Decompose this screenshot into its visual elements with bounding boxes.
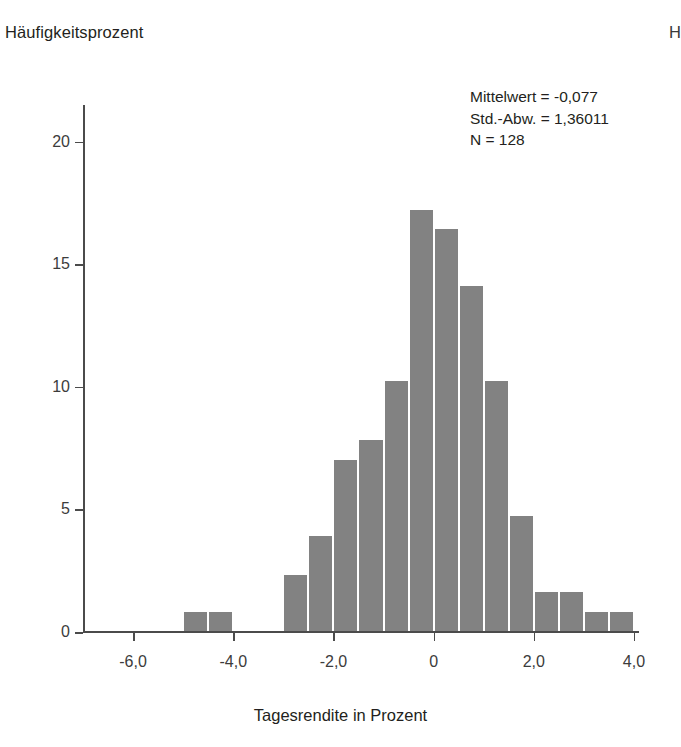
x-axis-title: Tagesrendite in Prozent xyxy=(0,706,681,725)
stat-mean: Mittelwert = -0,077 xyxy=(470,86,609,108)
plot-area: 05101520 -6,0-4,0-2,002,04,0 xyxy=(83,105,639,633)
histogram-bar xyxy=(559,592,584,631)
x-tick-mark xyxy=(133,632,135,641)
x-tick-mark xyxy=(233,632,235,641)
x-tick-label: 4,0 xyxy=(623,653,645,671)
histogram-bar xyxy=(584,612,609,632)
histogram-bar xyxy=(509,516,534,631)
x-tick-label: -6,0 xyxy=(119,653,147,671)
histogram-bar xyxy=(283,575,308,631)
y-tick-label: 10 xyxy=(52,378,70,396)
histogram-bar xyxy=(484,381,509,631)
x-tick-mark xyxy=(634,632,636,641)
adjacent-figure-fragment: H xyxy=(669,23,681,42)
y-tick-label: 20 xyxy=(52,133,70,151)
y-tick-mark xyxy=(75,142,83,144)
y-tick-mark xyxy=(75,387,83,389)
x-tick-label: 0 xyxy=(429,653,438,671)
y-tick-label: 0 xyxy=(61,623,70,641)
y-tick-mark xyxy=(75,509,83,511)
y-tick-mark xyxy=(75,632,83,634)
histogram-bar xyxy=(333,460,358,632)
x-tick-label: 2,0 xyxy=(523,653,545,671)
y-tick-mark xyxy=(75,264,83,266)
histogram-bar xyxy=(609,612,634,632)
y-tick-label: 5 xyxy=(61,500,70,518)
x-tick-label: -4,0 xyxy=(219,653,247,671)
y-tick-label: 15 xyxy=(52,255,70,273)
x-tick-mark xyxy=(333,632,335,641)
x-tick-mark xyxy=(534,632,536,641)
x-tick-mark xyxy=(434,632,436,641)
stat-count: N = 128 xyxy=(470,129,609,151)
histogram-bar xyxy=(183,612,208,632)
histogram-figure: Häufigkeitsprozent H 05101520 -6,0-4,0-2… xyxy=(0,0,681,747)
histogram-bar xyxy=(434,229,459,631)
histogram-bar xyxy=(409,210,434,632)
x-tick-label: -2,0 xyxy=(320,653,348,671)
histogram-bar xyxy=(208,612,233,632)
histogram-bar xyxy=(358,440,383,631)
histogram-bar xyxy=(534,592,559,631)
statistics-annotation: Mittelwert = -0,077 Std.-Abw. = 1,36011 … xyxy=(470,86,609,151)
histogram-bars xyxy=(83,105,639,632)
histogram-bar xyxy=(308,536,333,632)
stat-stddev: Std.-Abw. = 1,36011 xyxy=(470,108,609,130)
histogram-bar xyxy=(384,381,409,631)
y-axis-title: Häufigkeitsprozent xyxy=(5,23,143,42)
histogram-bar xyxy=(459,286,484,632)
